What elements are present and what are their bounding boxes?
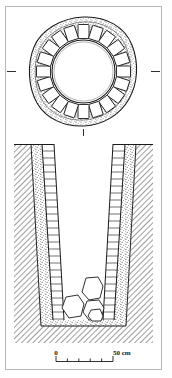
section-view-drawing — [5, 138, 162, 348]
section-view — [5, 138, 162, 348]
scale-bar-drawing: 0 50 cm — [5, 348, 162, 370]
plan-view-drawing — [5, 6, 162, 138]
figure-root: 0 50 cm — [0, 0, 172, 378]
rubble-stone-4 — [88, 309, 103, 321]
plan-view — [5, 6, 162, 138]
scale-bar-ticks — [56, 356, 113, 362]
scale-bar: 0 50 cm — [5, 348, 162, 370]
scale-bar-start-label: 0 — [54, 349, 58, 357]
plan-inner-opening — [52, 40, 115, 103]
scale-bar-end-label: 50 cm — [113, 349, 131, 357]
